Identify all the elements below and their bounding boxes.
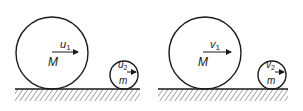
ground-hatching: [158, 89, 288, 101]
mass-label-large: M: [198, 55, 208, 69]
velocity-label-large: v1: [210, 38, 221, 52]
mass-label-large: M: [48, 55, 58, 69]
panel-before: u1 M u2 m: [15, 17, 140, 101]
mass-label-small: m: [119, 75, 127, 86]
collision-diagram: u1 M u2 m v1 M v2 m: [0, 0, 303, 111]
large-ball: [169, 17, 241, 89]
velocity-label-large: u1: [60, 38, 71, 52]
mass-label-small: m: [267, 75, 275, 86]
large-ball: [16, 17, 88, 89]
ground-hatching: [15, 89, 140, 101]
panel-after: v1 M v2 m: [158, 17, 288, 101]
